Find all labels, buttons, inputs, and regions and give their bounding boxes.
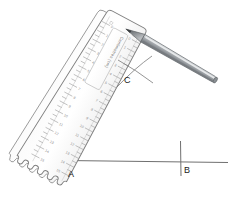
plastic-ruler: 0 1 2 3 4 5 6 7 bbox=[6, 0, 147, 189]
point-label-b: B bbox=[184, 165, 190, 175]
pencil bbox=[124, 25, 219, 85]
horizontal-base-line bbox=[66, 161, 228, 163]
pencil-shadow bbox=[142, 40, 213, 82]
pencil-highlight bbox=[145, 36, 216, 78]
ruler-main-slab: Centimetres (cm) bbox=[14, 3, 147, 187]
geometry-construction-figure: 0 1 2 3 4 5 6 7 bbox=[0, 0, 234, 199]
point-label-c: C bbox=[124, 75, 131, 85]
point-label-a: A bbox=[68, 169, 74, 179]
vertical-tick-at-b bbox=[181, 141, 182, 176]
